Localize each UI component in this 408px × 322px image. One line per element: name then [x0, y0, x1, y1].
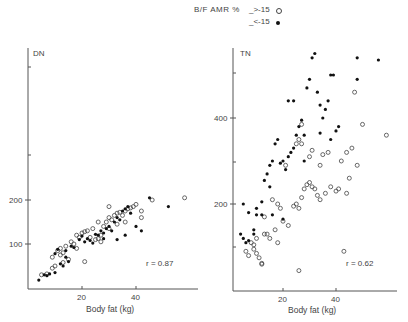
filled-data-point — [337, 125, 340, 128]
filled-data-point — [281, 218, 284, 221]
filled-data-point — [53, 252, 56, 255]
filled-data-point — [124, 207, 127, 210]
open-data-point — [268, 236, 272, 240]
filled-data-point — [94, 233, 97, 236]
filled-data-point — [242, 202, 245, 205]
filled-data-point — [252, 228, 255, 231]
open-data-point — [64, 244, 68, 248]
filled-data-point — [116, 216, 119, 219]
open-data-point — [94, 238, 98, 242]
filled-data-point — [242, 237, 245, 240]
tn-y-tick-label: 400 — [214, 114, 228, 123]
filled-data-point — [268, 164, 271, 167]
open-data-point — [315, 193, 319, 197]
filled-data-point — [271, 213, 274, 216]
filled-data-point — [99, 229, 102, 232]
filled-data-point — [319, 104, 322, 107]
open-data-point — [252, 243, 256, 247]
filled-data-point — [83, 240, 86, 243]
open-data-point — [276, 241, 280, 245]
open-data-point — [69, 240, 73, 244]
filled-data-point — [239, 233, 242, 236]
filled-data-point — [300, 119, 303, 122]
open-data-point — [297, 269, 301, 273]
filled-data-point — [148, 196, 151, 199]
filled-data-point — [274, 142, 277, 145]
open-data-point — [313, 187, 317, 191]
open-data-point — [255, 251, 259, 255]
filled-data-point — [91, 242, 94, 245]
dn-y-tick-label: 100 — [9, 240, 23, 249]
open-data-point — [300, 142, 304, 146]
filled-data-point — [102, 237, 105, 240]
open-data-point — [353, 90, 357, 94]
tn-r-annotation: r = 0.62 — [346, 259, 374, 268]
filled-data-point — [129, 212, 132, 215]
open-data-point — [270, 198, 274, 202]
open-data-point — [355, 163, 359, 167]
open-data-point — [297, 138, 301, 142]
open-data-point — [75, 233, 79, 237]
open-data-point — [342, 249, 346, 253]
open-data-point — [292, 204, 296, 208]
filled-data-point — [356, 78, 359, 81]
filled-data-point — [327, 99, 330, 102]
filled-data-point — [110, 229, 113, 232]
open-data-point — [265, 232, 269, 236]
open-data-point — [294, 142, 298, 146]
open-data-point — [247, 254, 251, 258]
filled-data-point — [332, 73, 335, 76]
filled-data-point — [134, 225, 137, 228]
tn-points — [239, 52, 388, 273]
open-data-point — [337, 187, 341, 191]
filled-data-point — [62, 264, 65, 267]
filled-data-point — [287, 155, 290, 158]
filled-data-point — [255, 213, 258, 216]
open-data-point — [286, 224, 290, 228]
open-data-point — [384, 133, 388, 137]
open-data-point — [104, 220, 108, 224]
filled-data-point — [45, 274, 48, 277]
open-data-point — [339, 159, 343, 163]
filled-data-point — [247, 239, 250, 242]
filled-data-point — [86, 237, 89, 240]
filled-data-point — [244, 241, 247, 244]
filled-data-point — [356, 56, 359, 59]
tn-x-tick-label: 40 — [331, 295, 340, 304]
filled-data-point — [116, 238, 119, 241]
open-data-point — [305, 183, 309, 187]
filled-data-point — [284, 168, 287, 171]
filled-data-point — [319, 132, 322, 135]
filled-data-point — [289, 151, 292, 154]
open-data-point — [85, 229, 89, 233]
open-data-point — [115, 211, 119, 215]
filled-data-point — [268, 185, 271, 188]
open-data-point — [139, 216, 143, 220]
open-data-point — [361, 122, 365, 126]
filled-data-point — [292, 147, 295, 150]
filled-data-point — [305, 86, 308, 89]
open-data-point — [58, 253, 62, 257]
open-data-point — [123, 220, 127, 224]
filled-data-point — [126, 205, 129, 208]
filled-data-point — [102, 231, 105, 234]
filled-data-point — [167, 205, 170, 208]
open-data-point — [321, 153, 325, 157]
dn-title: DN — [33, 49, 45, 58]
filled-data-point — [329, 138, 332, 141]
filled-data-point — [313, 52, 316, 55]
filled-data-point — [281, 159, 284, 162]
open-data-point — [308, 155, 312, 159]
open-data-point — [278, 206, 282, 210]
open-data-point — [294, 202, 298, 206]
open-data-point — [318, 163, 322, 167]
filled-data-point — [140, 229, 143, 232]
filled-data-point — [303, 134, 306, 137]
open-data-point — [96, 220, 100, 224]
filled-data-point — [72, 246, 75, 249]
filled-data-point — [297, 125, 300, 128]
filled-data-point — [316, 91, 319, 94]
filled-data-point — [266, 172, 269, 175]
filled-data-point — [78, 238, 81, 241]
filled-data-point — [37, 279, 40, 282]
